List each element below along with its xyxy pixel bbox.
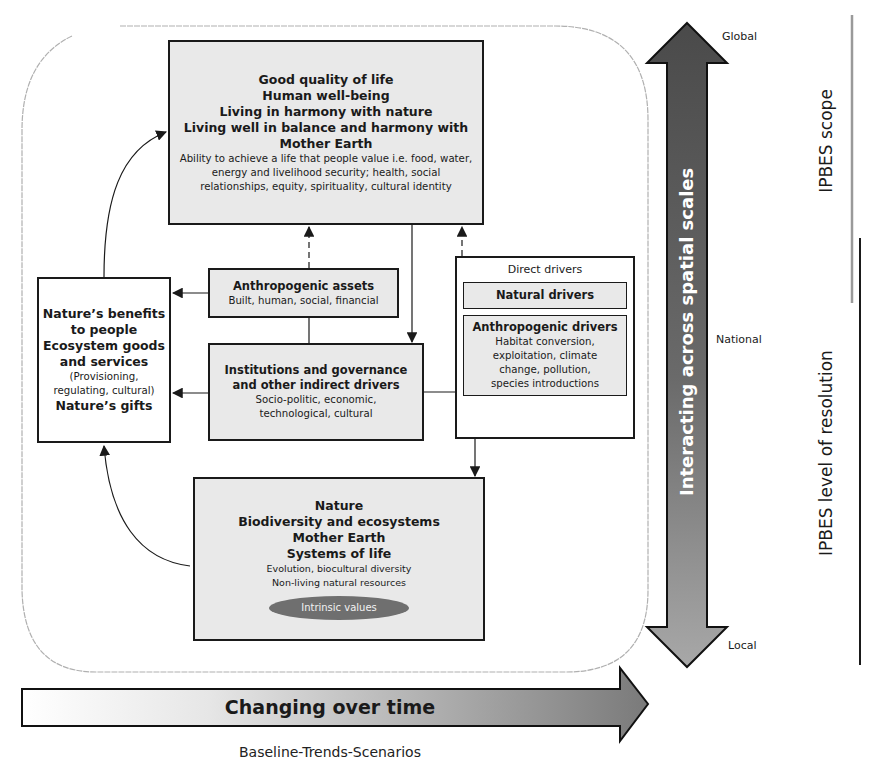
institutions-title-1: Institutions and governance bbox=[210, 363, 422, 378]
quality-detail-2: energy and livelihood security; health, … bbox=[170, 166, 482, 180]
anthro-detail-4: species introductions bbox=[464, 377, 626, 391]
anthropogenic-drivers-title: Anthropogenic drivers bbox=[464, 320, 626, 335]
nature-detail-1: Evolution, biocultural diversity bbox=[195, 562, 483, 576]
anthro-detail-3: change, pollution, bbox=[464, 363, 626, 377]
benefits-detail-2: regulating, cultural) bbox=[39, 384, 169, 398]
nature-title-2: Biodiversity and ecosystems bbox=[195, 514, 483, 530]
quality-title-2: Human well-being bbox=[170, 88, 482, 104]
natural-drivers-box: Natural drivers bbox=[463, 282, 627, 309]
quality-title-3: Living in harmony with nature bbox=[170, 104, 482, 120]
direct-drivers-title: Direct drivers bbox=[463, 263, 627, 277]
benefits-line-1: Nature’s benefits bbox=[39, 306, 169, 322]
direct-drivers-box: Direct drivers Natural drivers Anthropog… bbox=[455, 256, 635, 439]
scale-local: Local bbox=[728, 639, 757, 652]
scale-national: National bbox=[716, 333, 762, 346]
natural-drivers-label: Natural drivers bbox=[464, 288, 626, 303]
benefits-line-3: Ecosystem goods bbox=[39, 338, 169, 354]
nature-box: Nature Biodiversity and ecosystems Mothe… bbox=[193, 477, 485, 641]
quality-of-life-box: Good quality of life Human well-being Li… bbox=[168, 40, 484, 225]
institutions-title-2: and other indirect drivers bbox=[210, 378, 422, 393]
anthro-detail-1: Habitat conversion, bbox=[464, 335, 626, 349]
assets-title: Anthropogenic assets bbox=[210, 279, 397, 294]
anthropogenic-drivers-box: Anthropogenic drivers Habitat conversion… bbox=[463, 315, 627, 396]
institutions-box: Institutions and governance and other in… bbox=[208, 343, 424, 441]
intrinsic-values-badge: Intrinsic values bbox=[269, 596, 409, 620]
natures-benefits-box: Nature’s benefits to people Ecosystem go… bbox=[37, 277, 171, 443]
benefits-gifts: Nature’s gifts bbox=[39, 398, 169, 414]
quality-detail-3: relationships, equity, spirituality, cul… bbox=[170, 180, 482, 194]
institutions-detail-1: Socio-politic, economic, bbox=[210, 393, 422, 407]
quality-title-1: Good quality of life bbox=[170, 72, 482, 88]
time-arrow-label: Changing over time bbox=[180, 694, 480, 720]
intrinsic-values-label: Intrinsic values bbox=[301, 602, 377, 613]
quality-title-4: Living well in balance and harmony with bbox=[170, 120, 482, 136]
institutions-detail-2: technological, cultural bbox=[210, 407, 422, 421]
ipbes-scope-label: IPBES scope bbox=[815, 81, 837, 201]
connector-benefits-to-quality bbox=[104, 132, 166, 277]
nature-detail-2: Non-living natural resources bbox=[195, 576, 483, 590]
scale-global: Global bbox=[722, 30, 757, 43]
nature-title-4: Systems of life bbox=[195, 546, 483, 562]
quality-title-5: Mother Earth bbox=[170, 136, 482, 152]
anthro-detail-2: exploitation, climate bbox=[464, 349, 626, 363]
anthropogenic-assets-box: Anthropogenic assets Built, human, socia… bbox=[208, 268, 399, 318]
benefits-line-4: and services bbox=[39, 354, 169, 370]
ipbes-resolution-label: IPBES level of resolution bbox=[815, 356, 837, 556]
benefits-line-2: to people bbox=[39, 322, 169, 338]
nature-title-3: Mother Earth bbox=[195, 530, 483, 546]
quality-detail-1: Ability to achieve a life that people va… bbox=[170, 152, 482, 166]
connector-nature-to-benefits bbox=[104, 446, 190, 566]
nature-title-1: Nature bbox=[195, 498, 483, 514]
benefits-detail-1: (Provisioning, bbox=[39, 370, 169, 384]
assets-detail: Built, human, social, financial bbox=[210, 294, 397, 308]
spatial-scales-label: Interacting across spatial scales bbox=[675, 196, 699, 496]
time-caption: Baseline-Trends-Scenarios bbox=[180, 744, 480, 760]
